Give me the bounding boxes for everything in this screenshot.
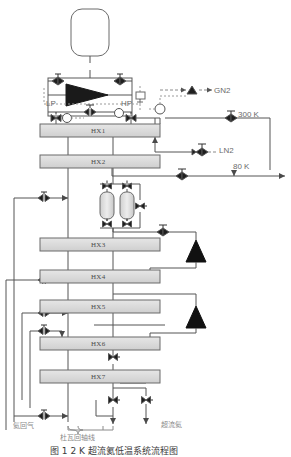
recycle-valve-4[interactable] — [38, 325, 50, 335]
adsorber-b — [120, 192, 134, 219]
adsorber-a-inlet-valve[interactable] — [103, 181, 112, 190]
hp-label: HP — [121, 99, 132, 108]
dewar-return-bracket — [68, 426, 103, 430]
helium-return-valve[interactable] — [38, 410, 50, 420]
n2-80k-valve[interactable] — [176, 169, 188, 180]
gn2-check-valve — [187, 86, 197, 94]
dewar-return-line-label: 杜瓦回轴线 — [60, 432, 95, 442]
ln2-label: LN2 — [219, 146, 234, 155]
hx1-label: HX1 — [91, 127, 106, 135]
adsorber-a — [100, 192, 114, 219]
process-flow-diagram — [0, 0, 291, 457]
turbine-1 — [186, 240, 206, 262]
hx7-label: HX7 — [91, 373, 106, 381]
adsorber-b-inlet-valve[interactable] — [123, 181, 132, 190]
lp-label: LP — [46, 99, 56, 108]
gn2-label: GN2 — [214, 86, 230, 95]
ln2-control-valve[interactable] — [192, 144, 208, 156]
jt-valve-2[interactable] — [109, 397, 121, 404]
control-panel-icon — [136, 92, 145, 99]
n2-300k-valve[interactable] — [225, 111, 237, 122]
temp-gauge-1 — [115, 109, 124, 118]
pressure-gauge-1 — [63, 114, 72, 123]
helium-return-gas-label: 氦回气 — [13, 420, 34, 430]
hx4-label: HX4 — [91, 273, 106, 281]
adsorber-bypass-valve[interactable] — [136, 203, 148, 209]
hx2-label: HX2 — [91, 158, 106, 166]
turbine-1-inlet-valve[interactable] — [157, 225, 169, 236]
jt-valve-3[interactable] — [142, 397, 154, 404]
hx3-label: HX3 — [91, 241, 106, 249]
recycle-valve-1[interactable] — [38, 192, 50, 202]
t300k-label: 300 K — [238, 110, 259, 119]
gas-storage-tank — [71, 9, 109, 56]
superfluid-helium-label: 超流氦 — [161, 419, 182, 429]
turbine-2 — [186, 306, 206, 328]
flow-gauge-1 — [155, 104, 165, 114]
figure-caption: 图 1 2 K 超流氦低温系统流程图 — [50, 444, 178, 457]
hx5-label: HX5 — [91, 303, 106, 311]
hx6-label: HX6 — [91, 340, 106, 348]
t80k-label: 80 K — [233, 162, 249, 171]
jt-valve-1[interactable] — [109, 354, 121, 361]
